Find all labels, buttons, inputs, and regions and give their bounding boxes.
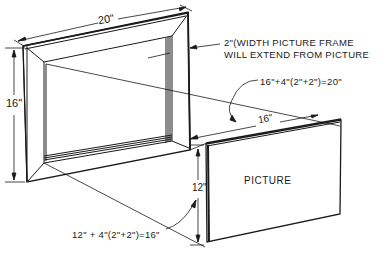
picture-height-label: 12" — [192, 183, 207, 193]
dimension-16in-vertical — [5, 48, 25, 182]
frame-width-note-line1: 2"(WIDTH PICTURE FRAME — [224, 37, 354, 49]
height-formula: 12" + 4"(2"+2")=16" — [72, 229, 160, 241]
picture-frame — [23, 12, 190, 182]
frame-height-label: 16" — [6, 98, 22, 109]
dimension-12in-vertical — [190, 145, 204, 245]
width-formula: 16"+4"(2"+2")=20" — [260, 76, 342, 88]
frame-width-note-line2: WILL EXTEND FROM PICTURE — [224, 49, 369, 61]
picture-label: PICTURE — [244, 176, 291, 186]
